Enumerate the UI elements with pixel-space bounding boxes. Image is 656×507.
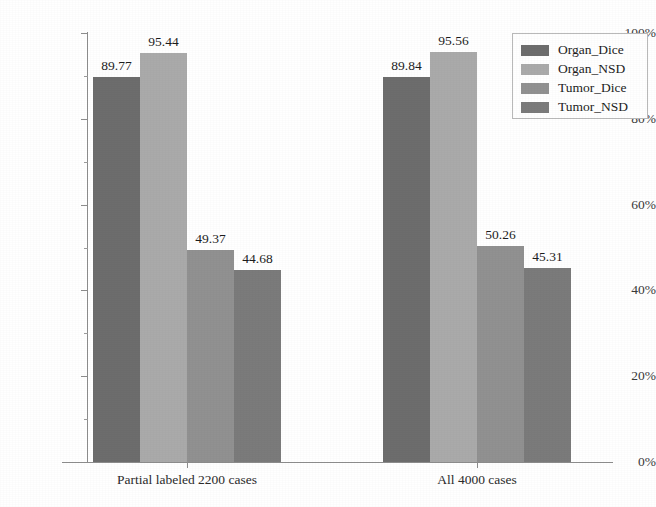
legend-swatch-icon (521, 64, 549, 75)
y-axis-tick (81, 462, 88, 463)
legend-item: Tumor_Dice (521, 79, 639, 97)
legend-item: Organ_NSD (521, 60, 639, 78)
y-axis-tick (81, 205, 88, 206)
y-axis-tick (81, 33, 88, 34)
legend-swatch-icon (521, 102, 549, 113)
bar-value-label: 50.26 (475, 227, 527, 243)
bar-value-label: 89.77 (91, 58, 143, 74)
legend-item-label: Tumor_NSD (558, 100, 628, 114)
bar-value-label: 95.56 (428, 33, 480, 49)
legend-item-label: Tumor_Dice (558, 81, 627, 95)
x-axis-tick (477, 462, 478, 468)
x-axis-tick (187, 462, 188, 468)
y-axis-tick (81, 119, 88, 120)
bar-value-label: 95.44 (138, 34, 190, 50)
bar (140, 53, 187, 462)
bar (234, 270, 281, 462)
bar (477, 246, 524, 462)
bar (93, 77, 140, 462)
legend: Organ_DiceOrgan_NSDTumor_DiceTumor_NSD (512, 33, 648, 119)
bar-value-label: 49.37 (185, 231, 237, 247)
y-axis-tick (81, 290, 88, 291)
bar (430, 52, 477, 462)
legend-item-label: Organ_Dice (558, 43, 624, 57)
bar (383, 77, 430, 462)
legend-item-label: Organ_NSD (558, 62, 625, 76)
bar-value-label: 89.84 (381, 58, 433, 74)
x-axis-category-label: Partial labeled 2200 cases (117, 472, 257, 488)
x-axis-line (62, 462, 613, 463)
bar-chart-figure: 100%80%60%40%20%0% 89.7795.4449.3744.688… (0, 0, 656, 507)
bar (187, 250, 234, 462)
bar (524, 268, 571, 462)
x-axis-category-label: All 4000 cases (437, 472, 516, 488)
legend-item: Tumor_NSD (521, 98, 639, 116)
bar-value-label: 44.68 (232, 251, 284, 267)
legend-swatch-icon (521, 83, 549, 94)
bar-value-label: 45.31 (522, 249, 574, 265)
legend-item: Organ_Dice (521, 41, 639, 59)
y-axis-tick (81, 376, 88, 377)
legend-swatch-icon (521, 45, 549, 56)
